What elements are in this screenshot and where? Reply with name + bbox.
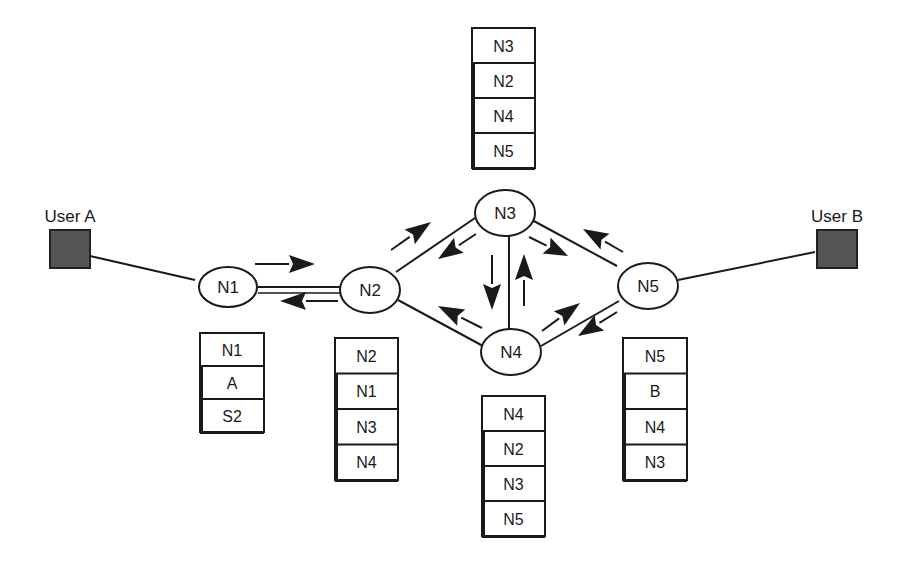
node-label: N2	[359, 281, 381, 300]
arrow-n3-to-n2-icon	[438, 234, 476, 259]
link-N2-N3	[396, 218, 475, 272]
arrow-n1-to-n2-icon	[255, 255, 315, 273]
stack-cell: N1	[356, 383, 377, 400]
user-label: User B	[811, 207, 863, 226]
stack-n5: N5BN4N3	[623, 338, 687, 481]
stack-cell: N1	[222, 342, 243, 359]
node-label: N4	[500, 343, 522, 362]
stack-cell: N4	[493, 108, 514, 125]
stack-n4: N4N2N3N5	[482, 396, 545, 537]
nodes-layer: N1N2N3N4N5	[199, 190, 678, 375]
link-N5-userB	[678, 252, 815, 280]
users-layer: User AUser B	[44, 207, 863, 268]
user-label: User A	[44, 207, 96, 226]
stack-cell: N5	[645, 348, 666, 365]
stack-n3: N3N2N4N5	[472, 28, 535, 169]
stack-cell: N4	[503, 406, 524, 423]
user-terminal-icon	[817, 230, 857, 268]
node-label: N5	[637, 277, 659, 296]
stack-cell: N2	[503, 441, 524, 458]
node-n1: N1	[199, 267, 257, 307]
node-n4: N4	[481, 329, 541, 375]
stack-cell: A	[227, 375, 238, 392]
user-userB: User B	[811, 207, 863, 268]
node-label: N1	[217, 278, 239, 297]
node-label: N3	[494, 204, 516, 223]
stack-n2: N2N1N3N4	[335, 338, 398, 481]
node-n3: N3	[475, 190, 535, 236]
arrow-n2-to-n1-icon	[280, 292, 338, 310]
stack-cell: N5	[493, 143, 514, 160]
arrow-n3-to-n4-icon	[483, 255, 501, 310]
stack-cell: N3	[503, 476, 524, 493]
stack-cell: N4	[356, 454, 377, 471]
stack-cell: N3	[356, 419, 377, 436]
stack-cell: N3	[645, 454, 666, 471]
arrow-n4-to-n3-icon	[515, 254, 533, 306]
arrow-n5-to-n4-icon	[578, 312, 617, 336]
network-routing-diagram: User AUser B N1N2N3N4N5 N1AS2N2N1N3N4N3N…	[0, 0, 898, 562]
arrow-n2-to-n3-icon	[391, 222, 431, 250]
stack-cell: N2	[493, 73, 514, 90]
stacks-layer: N1AS2N2N1N3N4N3N2N4N5N4N2N3N5N5BN4N3	[200, 28, 687, 537]
arrow-n5-to-n3-icon	[583, 229, 623, 252]
link-userA-user	[90, 256, 195, 280]
node-n2: N2	[340, 267, 400, 313]
node-n5: N5	[618, 263, 678, 309]
stack-cell: N5	[503, 511, 524, 528]
link-N3-N5	[532, 220, 617, 266]
stack-cell: N2	[356, 348, 377, 365]
arrow-n3-to-n5-icon	[529, 237, 568, 256]
stack-cell: N3	[493, 38, 514, 55]
stack-cell: B	[650, 383, 661, 400]
stack-cell: S2	[222, 408, 242, 425]
user-terminal-icon	[50, 230, 90, 268]
user-userA: User A	[44, 207, 96, 268]
stack-cell: N4	[645, 419, 666, 436]
links-layer	[90, 218, 815, 346]
stack-n1: N1AS2	[200, 333, 264, 433]
